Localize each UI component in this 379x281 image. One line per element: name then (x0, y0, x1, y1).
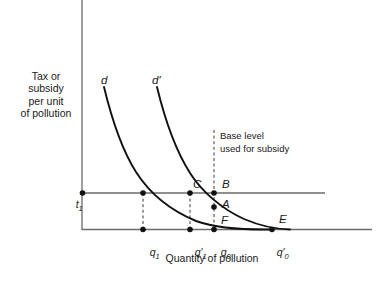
x-tick-label-q1-prime: q′1 (183, 234, 207, 275)
point-label-C: C (193, 178, 201, 192)
curve-d (104, 87, 272, 230)
x-tick-label-q0: q0 (209, 234, 231, 275)
dot-q1-on-xaxis (140, 227, 146, 233)
tick-sub: 1 (156, 252, 160, 261)
tick-sub: 0 (284, 252, 288, 261)
y-tick-sub: 1 (79, 204, 83, 213)
point-label-E: E (279, 213, 287, 227)
dot-B (211, 190, 217, 196)
curve-label-d: d (101, 74, 107, 88)
dot-d-at-t1 (140, 190, 146, 196)
dot-q1-prime-on-xaxis (187, 227, 193, 233)
y-tick-label-t1: t1 (64, 186, 83, 227)
dot-E (269, 227, 275, 233)
point-label-B: B (222, 178, 230, 192)
curve-label-d-prime: d′ (152, 74, 161, 88)
dot-F (211, 227, 217, 233)
base-level-annotation: Base level used for subsidy (220, 130, 289, 156)
dot-C (187, 190, 193, 196)
x-tick-label-q1: q1 (138, 234, 160, 275)
point-label-A: A (222, 198, 230, 212)
y-axis-title: Tax or subsidy per unit of pollution (8, 70, 84, 120)
dot-A (211, 204, 217, 210)
tick-sub: 0 (227, 252, 231, 261)
tick-sub: 1 (202, 252, 206, 261)
point-label-F: F (221, 214, 228, 228)
x-tick-label-q0-prime: q′0 (265, 234, 289, 275)
economics-pollution-tax-diagram: Tax or subsidy per unit of pollution Qua… (0, 0, 379, 281)
